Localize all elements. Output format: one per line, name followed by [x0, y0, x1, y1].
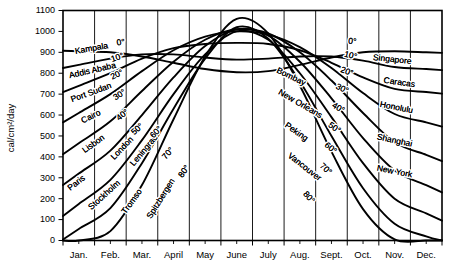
latitude-label-left: 0°0°: [116, 37, 125, 48]
y-axis-tick-label: 200: [40, 194, 55, 204]
y-axis-unit-label: cal/cm²/day: [5, 103, 16, 152]
latitude-label-right-text: 0°: [348, 36, 357, 47]
latitude-label-right: 0°0°: [348, 36, 357, 47]
x-axis-month-label: June: [226, 249, 247, 260]
y-axis-tick-label: 0: [50, 235, 55, 245]
x-axis-month-label: Jan.: [70, 249, 88, 260]
y-axis-tick-label: 400: [40, 152, 55, 162]
x-axis-month-label: Feb.: [101, 249, 120, 260]
x-axis-month-label: Mar.: [133, 249, 151, 260]
y-axis-tick-label: 700: [40, 89, 55, 99]
y-axis-tick-label: 600: [40, 110, 55, 120]
y-axis-tick-label: 100: [40, 214, 55, 224]
x-axis-month-label: Dec.: [416, 249, 436, 260]
chart-canvas: 010020030040050060070080090010001100 cal…: [0, 0, 451, 265]
x-axis-month-label: Oct.: [354, 249, 371, 260]
y-axis-tick-label: 1100: [36, 5, 55, 15]
x-axis-month-label: April: [164, 249, 183, 260]
y-axis-title: cal/cm²/day: [5, 103, 16, 152]
y-axis-tick-label: 300: [40, 173, 55, 183]
x-axis-month-label: Sept.: [320, 249, 342, 260]
y-axis-tick-label: 900: [40, 47, 55, 57]
x-axis-month-label: Nov.: [385, 249, 404, 260]
y-axis-tick-label: 1000: [35, 26, 55, 36]
y-axis-tick-label: 500: [40, 131, 55, 141]
y-axis-tick-label: 800: [40, 68, 55, 78]
x-axis-month-label: May: [196, 249, 214, 260]
solar-radiation-chart: 010020030040050060070080090010001100 cal…: [0, 0, 451, 265]
x-axis-month-label: Aug.: [290, 249, 310, 260]
x-axis-month-label: July: [260, 249, 277, 260]
latitude-label-left-text: 0°: [116, 37, 125, 48]
